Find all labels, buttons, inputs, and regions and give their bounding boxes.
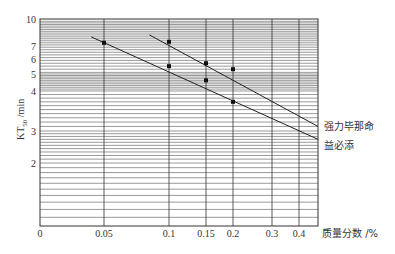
x-tick-label: 0.05 xyxy=(95,228,113,239)
x-tick-label: 0.2 xyxy=(227,228,240,239)
y-tick-label: 2 xyxy=(31,158,36,169)
x-axis-ticks: 00.050.10.150.20.30.4 xyxy=(38,228,306,239)
x-tick-label: 0.3 xyxy=(266,228,279,239)
y-tick-label: 7 xyxy=(31,41,36,52)
data-point xyxy=(102,41,106,45)
y-tick-label: 3 xyxy=(31,126,36,137)
data-point xyxy=(231,100,235,104)
data-point xyxy=(204,61,208,65)
legend: 强力毕那命益必添 xyxy=(324,120,374,151)
chart: 00.050.10.150.20.30.4 10765432 强力毕那命益必添 … xyxy=(0,0,395,254)
x-tick-label: 0 xyxy=(38,228,43,239)
x-tick-label: 0.1 xyxy=(163,228,176,239)
legend-label: 强力毕那命 xyxy=(324,120,374,132)
data-point xyxy=(167,40,171,44)
y-axis-ticks: 10765432 xyxy=(26,14,36,169)
grid-lines xyxy=(40,19,318,226)
x-axis-label: 质量分数 /% xyxy=(322,227,378,239)
legend-label: 益必添 xyxy=(324,139,354,151)
series-line xyxy=(150,35,319,126)
x-tick-label: 0.4 xyxy=(293,228,306,239)
y-axis-label: KT50 /min xyxy=(15,99,29,140)
y-tick-label: 6 xyxy=(31,54,36,65)
y-tick-label: 5 xyxy=(31,69,36,80)
plot-frame xyxy=(40,19,318,226)
x-tick-label: 0.15 xyxy=(197,228,215,239)
data-point xyxy=(167,64,171,68)
y-tick-label: 4 xyxy=(31,86,36,97)
data-point xyxy=(231,67,235,71)
data-point xyxy=(204,78,208,82)
y-tick-label: 10 xyxy=(26,14,36,25)
